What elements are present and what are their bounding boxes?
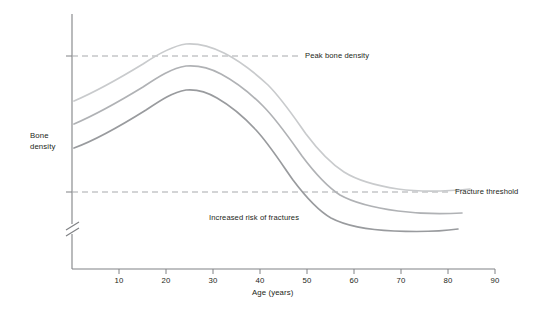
- lower-curve: [74, 90, 458, 232]
- x-axis-ticks: [119, 269, 495, 274]
- bone-density-chart: Bone density Peak bone density Fracture …: [0, 0, 551, 316]
- y-axis-title: Bone density: [30, 130, 72, 152]
- increased-risk-annotation: Increased risk of fractures: [209, 213, 299, 223]
- chart-canvas: [0, 0, 551, 316]
- fracture-threshold-label: Fracture threshold: [455, 187, 518, 197]
- x-tick-label-30: 30: [201, 276, 225, 286]
- x-tick-label-80: 80: [436, 276, 460, 286]
- x-tick-label-40: 40: [248, 276, 272, 286]
- x-tick-label-10: 10: [107, 276, 131, 286]
- x-tick-label-70: 70: [389, 276, 413, 286]
- x-tick-label-90: 90: [483, 276, 507, 286]
- x-tick-label-20: 20: [154, 276, 178, 286]
- x-tick-label-60: 60: [342, 276, 366, 286]
- x-axis-title: Age (years): [252, 288, 293, 298]
- peak-bone-density-label: Peak bone density: [305, 51, 369, 61]
- middle-curve: [74, 66, 462, 214]
- x-tick-label-50: 50: [295, 276, 319, 286]
